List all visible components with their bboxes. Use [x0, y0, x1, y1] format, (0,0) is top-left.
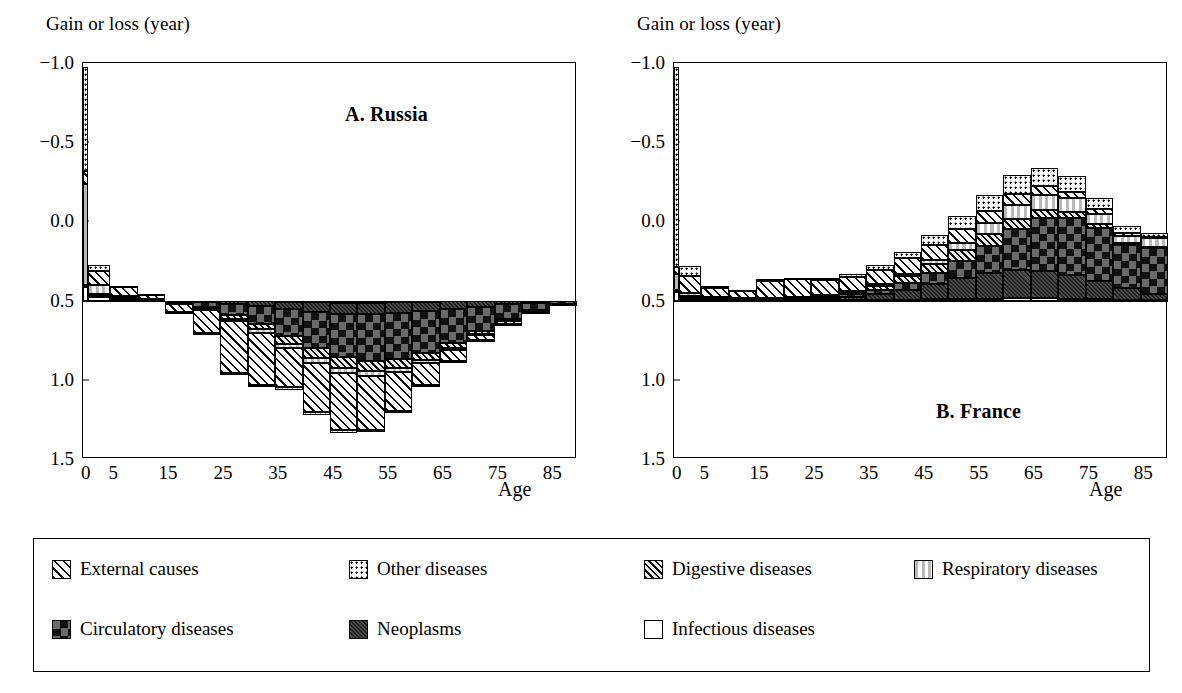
x-tick-label: 55 [969, 457, 988, 484]
bar-segment-digestive [88, 294, 110, 296]
y-tick-label: −0.5 [40, 131, 83, 153]
bar-segment-digestive [1058, 212, 1085, 218]
bar-segment-neoplasms [330, 303, 357, 314]
bar-segment-digestive [976, 234, 1003, 245]
stacked-bar [165, 63, 192, 459]
bar-segment-external [839, 277, 866, 291]
stacked-bar [220, 63, 247, 459]
bar-segment-respiratory [976, 223, 1003, 234]
legend-item[interactable]: Infectious diseases [644, 618, 815, 640]
plot-area-france: 1.51.00.50.0−0.5−1.0051525354555657585 [673, 62, 1167, 458]
bar-segment-external [275, 348, 302, 387]
y-axis-label-france: Gain or loss (year) [637, 13, 781, 35]
y-tick-label: 0.5 [50, 290, 83, 312]
bar-segment-neoplasms [1113, 288, 1140, 300]
bar-segment-respiratory [1141, 238, 1168, 247]
bar-segment-other [138, 294, 165, 296]
legend-item[interactable]: Neoplasms [349, 618, 461, 640]
y-tick-label: 1.0 [50, 369, 83, 391]
bar-segment-circulatory [220, 304, 247, 315]
stacked-bar [701, 63, 728, 459]
bar-segment-neoplasms [385, 302, 412, 313]
bar-segment-external [894, 258, 921, 273]
bar-segment-digestive [1141, 247, 1168, 249]
bar-segment-external [88, 271, 110, 285]
bar-segment-other [1086, 198, 1113, 209]
bar-segment-external [412, 363, 439, 385]
bar-segment-digestive [1113, 243, 1140, 245]
bar-segment-external [976, 211, 1003, 223]
bar-segment-other [894, 252, 921, 259]
bar-segment-infectious [921, 299, 948, 301]
legend-item[interactable]: Other diseases [349, 558, 487, 580]
y-tick-label: 0.0 [50, 210, 83, 232]
bar-segment-circulatory [839, 294, 866, 296]
bar-segment-other [303, 412, 330, 415]
legend-swatch-icon [644, 560, 663, 579]
legend-item[interactable]: Digestive diseases [644, 558, 812, 580]
bar-segment-other [385, 411, 412, 413]
bar-segment-other [220, 373, 247, 375]
bar-segment-digestive [330, 357, 357, 368]
bar-segment-circulatory [894, 283, 921, 290]
bar-segment-other [495, 324, 522, 326]
bar-segment-external [550, 304, 577, 306]
y-tick-label: −1.0 [40, 52, 83, 74]
bar-segment-digestive [1003, 219, 1030, 229]
stacked-bar [440, 63, 467, 459]
bar-segment-neoplasms [839, 297, 866, 300]
bar-segment-external [1058, 192, 1085, 199]
bar-segment-infectious [976, 299, 1003, 301]
stacked-bar [467, 63, 494, 459]
stacked-bar [193, 63, 220, 459]
bar-segment-circulatory [303, 312, 330, 348]
bar-segment-external [948, 229, 975, 243]
bar-segment-respiratory [1113, 236, 1140, 243]
bar-segment-digestive [385, 359, 412, 368]
bar-segment-neoplasms [1058, 275, 1085, 299]
bar-segment-infectious [1031, 298, 1058, 300]
bar-segment-other [756, 279, 783, 281]
legend-item[interactable]: Respiratory diseases [914, 558, 1098, 580]
legend-label: Other diseases [377, 558, 487, 580]
legend-item[interactable]: External causes [52, 558, 199, 580]
bar-segment-circulatory [275, 309, 302, 336]
y-tick-label: 0.5 [641, 290, 674, 312]
bar-segment-other [811, 278, 838, 280]
x-axis-label-france: Age [1089, 478, 1122, 501]
bar-segment-other [467, 340, 494, 342]
stacked-bar [1113, 63, 1140, 459]
bar-segment-other [330, 430, 357, 433]
bar-segment-external [784, 279, 811, 296]
bar-segment-external [1113, 233, 1140, 236]
x-tick-label: 35 [268, 457, 287, 484]
bar-segment-neoplasms [894, 290, 921, 300]
bar-segment-respiratory [679, 293, 701, 296]
y-axis-label-russia: Gain or loss (year) [46, 13, 190, 35]
legend-swatch-icon [52, 620, 71, 639]
legend-label: Infectious diseases [672, 618, 815, 640]
bar-segment-other [1141, 233, 1168, 236]
bar-segment-other [701, 286, 728, 288]
x-tick-label: 55 [378, 457, 397, 484]
y-tick-label: 0.0 [641, 210, 674, 232]
bar-segment-external [1003, 194, 1030, 204]
bar-segment-external [330, 373, 357, 429]
stacked-bar [550, 63, 577, 459]
bar-segment-neoplasms [921, 284, 948, 299]
legend-item[interactable]: Circulatory diseases [52, 618, 234, 640]
bar-segment-external [303, 363, 330, 412]
bar-segment-external [220, 321, 247, 372]
bar-segment-other [1113, 226, 1140, 233]
bar-segment-other [522, 312, 549, 314]
bar-segment-other [110, 286, 137, 288]
bar-segment-digestive [866, 286, 893, 290]
x-tick-label: 25 [804, 457, 823, 484]
bar-segment-respiratory [88, 285, 110, 294]
legend-label: External causes [80, 558, 199, 580]
bar-segment-neoplasms [1141, 294, 1168, 300]
bar-segment-other [275, 387, 302, 390]
bar-segment-external [110, 287, 137, 296]
stacked-bar [839, 63, 866, 459]
bar-segment-infectious [811, 300, 838, 302]
